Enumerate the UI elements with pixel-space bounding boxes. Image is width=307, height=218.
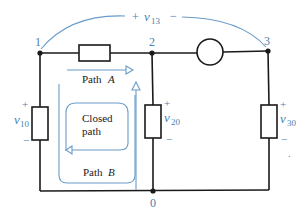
path-b-letter: B: [108, 166, 115, 178]
v30-symbol: v: [280, 111, 286, 126]
path-a-letter: A: [107, 73, 115, 85]
closed-path-line2: path: [82, 125, 101, 137]
closed-path-arrow-icon: [66, 146, 72, 154]
v30-subscript: 30: [287, 118, 297, 128]
v13-symbol: v: [144, 9, 150, 24]
node-2-dot: [149, 50, 154, 55]
node-1-dot: [37, 50, 42, 55]
v10-subscript: 10: [20, 119, 30, 129]
v30-plus: +: [280, 98, 286, 110]
v13-arc-right: [182, 17, 266, 47]
node-0-dot: [150, 188, 155, 193]
path-a-word: Path: [82, 73, 102, 85]
v20-minus: −: [166, 133, 172, 145]
path-b-word: Path: [83, 166, 103, 178]
node-0-label: 0: [150, 196, 156, 210]
v10-plus: +: [22, 98, 28, 110]
stray-mark: .: [288, 148, 291, 159]
v20-subscript: 20: [171, 117, 181, 127]
resistor-3-0: [261, 105, 277, 138]
source-2-3: [197, 39, 223, 65]
v13-plus: +: [132, 10, 139, 24]
node-3-dot: [265, 48, 270, 53]
circuit-diagram: 1 2 3 0 + v 13 − + v 10 − + v 20 − + v 3…: [0, 0, 307, 218]
v30-minus: −: [281, 133, 287, 145]
node-2-label: 2: [149, 35, 155, 49]
node-1-label: 1: [35, 35, 41, 49]
resistor-2-0: [145, 105, 161, 138]
v20-plus: +: [164, 97, 170, 109]
v20-symbol: v: [164, 110, 170, 125]
v13-arc: [41, 16, 125, 49]
closed-path-line1: Closed: [82, 112, 113, 124]
path-a: [67, 66, 140, 190]
resistor-1-2: [79, 45, 110, 61]
v10-minus: −: [23, 134, 29, 146]
resistor-1-0: [32, 107, 48, 140]
v13-minus: −: [170, 9, 177, 23]
v13-subscript: 13: [151, 16, 161, 26]
